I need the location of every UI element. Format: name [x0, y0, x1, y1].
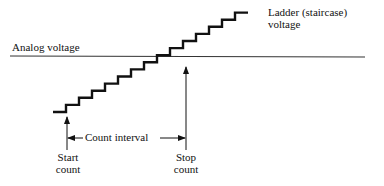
start-label-line1: Start: [53, 151, 83, 163]
stop-label-line1: Stop: [171, 151, 201, 163]
count-interval-label: Count interval: [83, 131, 150, 143]
analog-voltage-label: Analog voltage: [12, 41, 80, 53]
analog-voltage-line: [10, 56, 365, 57]
ladder-voltage-label: Ladder (staircase) voltage: [268, 6, 347, 30]
start-count-label: Start count: [53, 151, 83, 175]
staircase-waveform: [53, 13, 248, 112]
stop-count-label: Stop count: [171, 151, 201, 175]
ladder-label-line1: Ladder (staircase): [268, 6, 347, 18]
ladder-label-line2: voltage: [268, 18, 347, 30]
start-label-line2: count: [53, 163, 83, 175]
stop-label-line2: count: [171, 163, 201, 175]
